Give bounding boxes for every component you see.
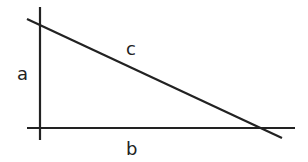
label-a: a xyxy=(17,65,28,83)
triangle-diagram xyxy=(0,0,308,162)
label-b: b xyxy=(126,140,137,158)
label-c: c xyxy=(126,40,136,58)
hypotenuse-c-line xyxy=(27,19,282,138)
